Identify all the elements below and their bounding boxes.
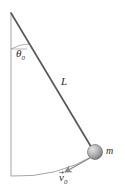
- velocity-subscript: 0: [64, 178, 67, 185]
- angle-label: θ0: [16, 48, 25, 62]
- velocity-symbol: v: [59, 171, 64, 183]
- mass-label: m: [106, 146, 113, 156]
- swing-arc: [11, 155, 95, 176]
- length-label: L: [61, 76, 67, 87]
- pendulum-figure: θ0 L m v0: [0, 0, 125, 192]
- pendulum-bob: [88, 145, 103, 160]
- pendulum-diagram-canvas: [0, 0, 125, 192]
- velocity-arrow: [65, 158, 90, 172]
- angle-subscript: 0: [21, 54, 24, 61]
- velocity-label: v0: [59, 172, 67, 186]
- pendulum-string: [11, 13, 93, 150]
- velocity-vector-group: v: [59, 172, 64, 183]
